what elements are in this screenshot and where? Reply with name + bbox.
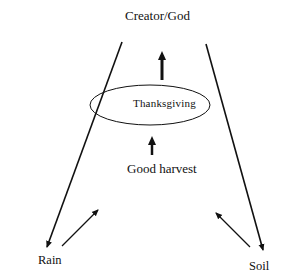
thanksgiving-label: Thanksgiving [133,98,196,109]
diagram-svg [0,0,283,274]
creator-label: Creator/God [125,9,190,22]
soil-to-harvest-arrow [216,213,250,247]
rain-to-harvest-arrow [62,210,98,246]
good-harvest-label: Good harvest [127,162,197,175]
soil-label: Soil [249,260,269,273]
creator-to-soil-line [206,44,263,250]
rain-label: Rain [38,254,62,267]
creator-to-rain-line [47,42,122,247]
diagram-canvas: Creator/God Thanksgiving Good harvest Ra… [0,0,283,274]
